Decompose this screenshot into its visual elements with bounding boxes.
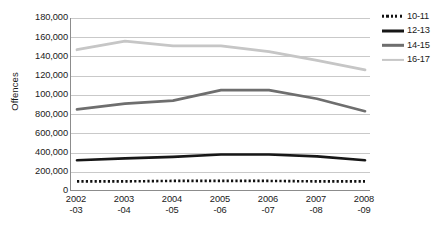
legend-swatch-icon — [382, 54, 404, 66]
x-axis-tick-label-line1: 2004 — [145, 194, 199, 205]
y-axis-tick-label: 200,000 — [16, 167, 68, 176]
series-line-12-13 — [77, 154, 365, 160]
legend-item-16-17[interactable]: 16-17 — [382, 53, 442, 68]
x-axis-tick-label: 2008-09 — [337, 194, 391, 217]
y-axis-tick-label: 100,000 — [16, 90, 68, 99]
legend-label: 14-15 — [407, 41, 430, 50]
series-line-14-15 — [77, 90, 365, 111]
x-axis-tick-label-line1: 2005 — [193, 194, 247, 205]
x-axis-tick-label-line1: 2008 — [337, 194, 391, 205]
legend-label: 10-11 — [407, 12, 429, 21]
x-axis-tick-label-line1: 2002 — [49, 194, 103, 205]
y-axis-tick-label: 140,000 — [16, 52, 68, 61]
y-axis-tick-label: 400,000 — [16, 148, 68, 157]
x-axis-tick-label-line2: -04 — [97, 205, 151, 216]
x-axis-tick-label-line1: 2003 — [97, 194, 151, 205]
y-axis-tick-label: 120,000 — [16, 71, 68, 80]
legend-item-14-15[interactable]: 14-15 — [382, 38, 442, 53]
x-axis-tick-label-line2: -03 — [49, 205, 103, 216]
x-axis-tick-label-line2: -05 — [145, 205, 199, 216]
x-axis-tick-label: 2002-03 — [49, 194, 103, 217]
y-axis-tick-labels: 180,000160,000140,000120,000100,000800,0… — [16, 11, 68, 199]
legend-swatch-icon — [382, 25, 404, 37]
chart-legend: 10-1112-1314-1516-17 — [382, 9, 442, 67]
x-axis-tick-label-line2: -08 — [289, 205, 343, 216]
plot-area — [70, 18, 370, 191]
x-axis-tick-label-line2: -07 — [241, 205, 295, 216]
legend-label: 12-13 — [407, 26, 430, 35]
x-axis-tick-label: 2005-06 — [193, 194, 247, 217]
x-axis-tick-labels: 2002-032003-042004-052005-062006-072007-… — [70, 194, 370, 228]
legend-swatch-icon — [382, 39, 404, 51]
x-axis-tick-label-line2: -09 — [337, 205, 391, 216]
x-axis-tick-label: 2006-07 — [241, 194, 295, 217]
y-axis-tick-label: 180,000 — [16, 13, 68, 22]
legend-item-10-11[interactable]: 10-11 — [382, 9, 442, 24]
x-axis-tick-label: 2007-08 — [289, 194, 343, 217]
x-axis-tick-label: 2003-04 — [97, 194, 151, 217]
y-axis-tick-label: 800,000 — [16, 110, 68, 119]
legend-label: 16-17 — [407, 55, 430, 64]
x-axis-tick-label: 2004-05 — [145, 194, 199, 217]
y-axis-tick-label: 160,000 — [16, 33, 68, 42]
line-chart: Offences 180,000160,000140,000120,000100… — [0, 0, 442, 228]
legend-item-12-13[interactable]: 12-13 — [382, 24, 442, 39]
x-axis-tick-label-line1: 2007 — [289, 194, 343, 205]
x-axis-tick-label-line1: 2006 — [241, 194, 295, 205]
x-axis-tick-label-line2: -06 — [193, 205, 247, 216]
series-lines — [71, 18, 371, 191]
series-line-16-17 — [77, 41, 365, 70]
y-axis-tick-label: 600,000 — [16, 129, 68, 138]
legend-swatch-icon — [382, 10, 404, 22]
